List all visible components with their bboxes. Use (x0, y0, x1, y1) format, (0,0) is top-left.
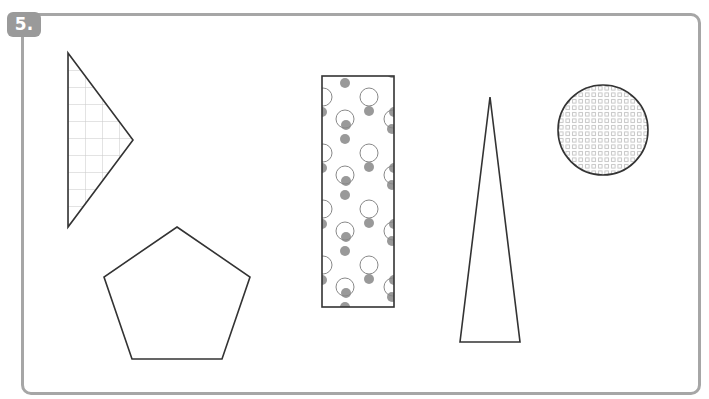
pentagon (104, 227, 250, 359)
shapes-canvas (0, 0, 709, 399)
grid-triangle (68, 53, 133, 227)
patterned-circle (558, 85, 648, 175)
tall-triangle (460, 97, 520, 342)
polka-dot-rectangle (322, 76, 394, 307)
